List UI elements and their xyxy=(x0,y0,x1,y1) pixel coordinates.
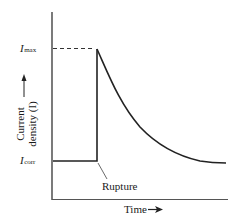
rupture-label: Rupture xyxy=(102,180,138,192)
rupture-leader-line xyxy=(98,163,107,179)
right-arrow-icon xyxy=(148,206,163,213)
current-density-chart: Imax Icorr Current density (I) Rupture T… xyxy=(0,0,238,221)
icorr-label: Icorr xyxy=(19,154,36,166)
up-arrow-icon xyxy=(22,74,27,97)
current-density-line xyxy=(53,49,97,161)
decay-curve xyxy=(97,49,226,163)
imax-label: Imax xyxy=(19,42,37,54)
svg-text:density (I): density (I) xyxy=(26,101,39,147)
svg-text:Current: Current xyxy=(14,107,26,141)
x-axis-label: Time xyxy=(124,203,147,215)
y-axis-label: Current density (I) xyxy=(14,101,39,147)
